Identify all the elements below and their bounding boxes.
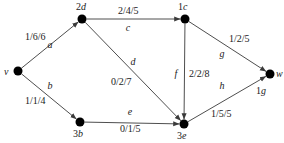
node-label: 1g (256, 85, 266, 96)
edge-flow-label: 2/4/5 (118, 5, 139, 16)
flow-network-diagram: a1/6/6b1/1/4c2/4/5d0/2/7e0/1/5f2/2/8g1/2… (0, 0, 284, 143)
node-b (76, 118, 85, 127)
edge-flow-label: 1/6/6 (25, 31, 46, 42)
edge-name-label: b (48, 80, 53, 91)
node-d (78, 15, 87, 24)
edge-name-label: g (220, 48, 225, 59)
edge-name-label: d (131, 56, 137, 67)
node-label: 1c (178, 1, 188, 12)
node-e (180, 120, 189, 129)
diagram-canvas: a1/6/6b1/1/4c2/4/5d0/2/7e0/1/5f2/2/8g1/2… (0, 0, 284, 143)
node-label: v (4, 66, 9, 77)
node-label: 3b (73, 128, 83, 139)
edge-name-label: a (48, 39, 53, 50)
edge-name-label: h (220, 80, 225, 91)
node-labels-layer: v2d1cw1g3b3e (4, 1, 283, 141)
edge-flow-label: 2/2/8 (189, 68, 210, 79)
edge-d (85, 22, 181, 121)
edge-flow-label: 1/5/5 (211, 108, 232, 119)
node-w (266, 70, 275, 79)
edge-name-label: f (175, 68, 179, 79)
nodes-layer (14, 15, 275, 129)
edge-name-label: e (128, 106, 133, 117)
edge-f (184, 23, 185, 119)
node-label: w (276, 68, 283, 79)
edge-name-label: c (126, 22, 131, 33)
edge-flow-label: 0/2/7 (111, 76, 132, 87)
edge-flow-label: 1/1/4 (25, 95, 46, 106)
node-v (14, 67, 23, 76)
edge-labels-layer: a1/6/6b1/1/4c2/4/5d0/2/7e0/1/5f2/2/8g1/2… (25, 5, 250, 134)
node-label: 2d (76, 1, 87, 12)
node-c (181, 15, 190, 24)
node-label: 3e (177, 130, 187, 141)
edge-g (189, 21, 266, 71)
edge-flow-label: 1/2/5 (229, 33, 250, 44)
edge-flow-label: 0/1/5 (120, 123, 141, 134)
